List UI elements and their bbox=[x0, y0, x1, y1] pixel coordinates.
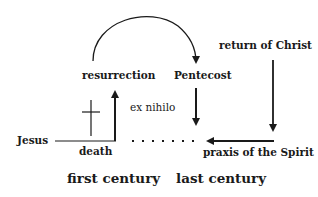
label-death: death bbox=[79, 146, 112, 157]
label-last-century: last century bbox=[176, 172, 266, 186]
label-praxis-of-the-spirit: praxis of the Spirit bbox=[203, 147, 314, 158]
label-first-century: first century bbox=[67, 172, 160, 186]
label-jesus: Jesus bbox=[17, 135, 48, 146]
resurrection-to-pentecost-arc bbox=[93, 17, 196, 62]
label-return-of-christ: return of Christ bbox=[219, 40, 312, 51]
diagram-lines bbox=[0, 0, 318, 197]
label-resurrection: resurrection bbox=[82, 70, 155, 81]
label-ex-nihilo: ex nihilo bbox=[130, 102, 175, 113]
label-pentecost: Pentecost bbox=[174, 70, 232, 81]
